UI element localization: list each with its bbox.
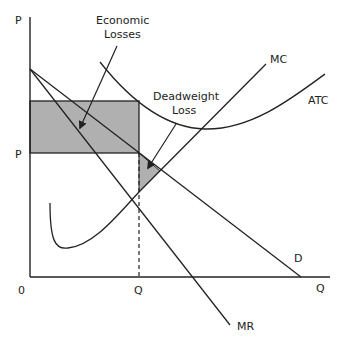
mc-label: MC (270, 53, 287, 66)
economic-losses-label-line2: Losses (104, 28, 141, 41)
y-axis-label: P (15, 14, 22, 27)
economic-losses-label-line1: Economic (96, 14, 149, 27)
origin-label: 0 (18, 284, 25, 297)
deadweight-loss-label-line2: Loss (172, 104, 196, 117)
mr-label: MR (237, 320, 254, 333)
price-tick-label: P (15, 148, 22, 161)
deadweight-loss-label-line1: Deadweight (153, 90, 220, 103)
deadweight-loss-area (139, 153, 160, 192)
quantity-tick-label: Q (134, 284, 143, 297)
economic-losses-area (30, 101, 139, 153)
x-axis-label: Q (316, 282, 325, 295)
deadweight-loss-arrow (148, 124, 176, 168)
atc-label: ATC (308, 94, 329, 107)
monopoly-diagram: P P 0 Q Q MC ATC D MR Economic Losses De… (0, 0, 345, 347)
demand-label: D (294, 252, 302, 265)
